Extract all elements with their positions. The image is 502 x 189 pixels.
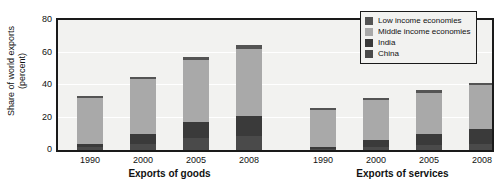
bar-segment-china	[130, 144, 156, 150]
x-tick-label: 1990	[303, 155, 343, 165]
bar-segment-india	[416, 134, 442, 145]
bar-segment-china	[416, 145, 442, 150]
chart-figure: Share of world exports (percent) 0204060…	[0, 0, 502, 189]
gridline	[58, 84, 492, 85]
y-tick-label: 40	[0, 79, 52, 89]
chart-legend: Low income economiesMiddle income econom…	[360, 11, 477, 64]
legend-item: Low income economies	[365, 16, 471, 26]
bar-stack	[183, 57, 209, 150]
legend-label: India	[378, 39, 395, 47]
legend-swatch-icon	[365, 17, 373, 25]
legend-item: Middle income economies	[365, 27, 471, 37]
bar-segment-india	[363, 140, 389, 147]
y-tick-label: 20	[0, 112, 52, 122]
group-label: Exports of services	[293, 168, 502, 179]
bar-stack	[363, 98, 389, 150]
bar-segment-china	[469, 144, 492, 150]
bar-segment-china	[183, 138, 209, 150]
bar-segment-china	[236, 136, 262, 150]
legend-swatch-icon	[365, 28, 373, 36]
bar-segment-china	[77, 147, 103, 150]
x-tick-label: 2005	[409, 155, 449, 165]
x-tick-label: 1990	[70, 155, 110, 165]
legend-swatch-icon	[365, 50, 373, 58]
bar-segment-middle-income-economies	[236, 49, 262, 116]
bar-segment-china	[363, 147, 389, 150]
x-tick-label: 2000	[356, 155, 396, 165]
bar-segment-india	[183, 122, 209, 139]
bar-stack	[416, 90, 442, 150]
bar-segment-middle-income-economies	[77, 98, 103, 144]
bar-segment-middle-income-economies	[130, 79, 156, 134]
legend-label: China	[378, 50, 399, 58]
x-tick-label: 2008	[462, 155, 502, 165]
group-label: Exports of goods	[60, 168, 280, 179]
bar-segment-middle-income-economies	[183, 60, 209, 122]
bar-stack	[236, 45, 262, 150]
legend-label: Middle income economies	[378, 28, 471, 36]
bar-segment-china	[310, 149, 336, 150]
bar-stack	[469, 83, 492, 150]
legend-item: India	[365, 38, 471, 48]
y-tick-label: 80	[0, 14, 52, 24]
x-tick-label: 2008	[229, 155, 269, 165]
y-tick-label: 0	[0, 144, 52, 154]
bar-segment-middle-income-economies	[310, 110, 336, 147]
bar-stack	[310, 108, 336, 150]
bar-stack	[130, 77, 156, 150]
legend-swatch-icon	[365, 39, 373, 47]
bar-segment-india	[236, 116, 262, 136]
bar-segment-middle-income-economies	[363, 100, 389, 140]
x-tick-label: 2000	[123, 155, 163, 165]
x-tick-label: 2005	[176, 155, 216, 165]
bar-segment-india	[130, 134, 156, 144]
bar-stack	[77, 96, 103, 150]
legend-label: Low income economies	[378, 17, 462, 25]
y-tick-label: 60	[0, 47, 52, 57]
bar-segment-middle-income-economies	[469, 85, 492, 129]
bar-segment-middle-income-economies	[416, 93, 442, 134]
bar-segment-india	[469, 129, 492, 144]
legend-item: China	[365, 49, 471, 59]
